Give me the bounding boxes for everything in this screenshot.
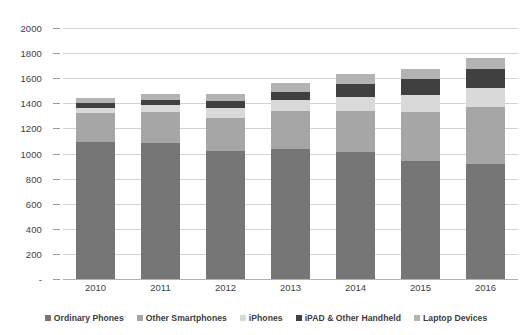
- y-axis-tick-mark: [53, 103, 60, 104]
- legend-item[interactable]: iPhones: [240, 313, 283, 323]
- bar-segment[interactable]: [206, 151, 245, 279]
- bar-segment[interactable]: [336, 74, 375, 84]
- legend-item[interactable]: iPAD & Other Handheld: [296, 313, 401, 323]
- bar-segment[interactable]: [271, 92, 310, 100]
- bar-segment[interactable]: [206, 108, 245, 118]
- bar-segment[interactable]: [336, 152, 375, 279]
- bar-segment[interactable]: [76, 98, 115, 104]
- bar-group[interactable]: [401, 28, 440, 279]
- bar-segment[interactable]: [466, 58, 505, 70]
- y-axis-tick-label: 1400: [0, 98, 42, 109]
- bar-segment[interactable]: [466, 69, 505, 87]
- legend-label: Laptop Devices: [423, 313, 487, 323]
- legend-swatch-icon: [137, 315, 143, 321]
- y-axis-tick-mark: [53, 154, 60, 155]
- bar-segment[interactable]: [141, 100, 180, 106]
- legend-swatch-icon: [414, 315, 420, 321]
- y-axis-tick-label: 2000: [0, 23, 42, 34]
- y-axis-tick-mark: [53, 179, 60, 180]
- bar-group[interactable]: [206, 28, 245, 279]
- bar-segment[interactable]: [401, 161, 440, 279]
- bar-segment[interactable]: [336, 111, 375, 152]
- y-axis-tick-mark: [53, 128, 60, 129]
- bar-segment[interactable]: [271, 100, 310, 111]
- y-axis-tick-label: 1600: [0, 73, 42, 84]
- legend-label: Other Smartphones: [146, 313, 227, 323]
- bar-group[interactable]: [141, 28, 180, 279]
- bar-segment[interactable]: [76, 142, 115, 279]
- x-axis-line: [63, 279, 518, 280]
- bar-segment[interactable]: [76, 103, 115, 107]
- y-axis-tick-mark: [53, 254, 60, 255]
- x-axis-tick-label: 2012: [193, 282, 258, 293]
- bar-segment[interactable]: [206, 101, 245, 108]
- bar-segment[interactable]: [466, 107, 505, 163]
- legend-item[interactable]: Other Smartphones: [137, 313, 227, 323]
- chart-legend: Ordinary PhonesOther SmartphonesiPhonesi…: [0, 313, 532, 323]
- y-axis-tick-label: 800: [0, 173, 42, 184]
- legend-label: iPhones: [249, 313, 283, 323]
- x-axis-tick-label: 2014: [323, 282, 388, 293]
- y-axis-tick-label: -: [0, 274, 42, 285]
- x-axis-tick-label: 2011: [128, 282, 193, 293]
- bar-segment[interactable]: [206, 118, 245, 151]
- bar-segment[interactable]: [206, 94, 245, 101]
- x-axis-tick-label: 2016: [453, 282, 518, 293]
- x-axis-tick-label: 2013: [258, 282, 323, 293]
- legend-swatch-icon: [296, 315, 302, 321]
- y-axis-tick-label: 200: [0, 248, 42, 259]
- bar-segment[interactable]: [271, 83, 310, 92]
- x-axis-tick-label: 2015: [388, 282, 453, 293]
- legend-item[interactable]: Laptop Devices: [414, 313, 487, 323]
- bar-segment[interactable]: [401, 79, 440, 95]
- y-axis-tick-mark: [53, 204, 60, 205]
- bar-segment[interactable]: [401, 69, 440, 80]
- y-axis-tick-label: 600: [0, 198, 42, 209]
- y-axis-tick-mark: [53, 28, 60, 29]
- x-axis-tick-label: 2010: [63, 282, 128, 293]
- legend-swatch-icon: [45, 315, 51, 321]
- legend-item[interactable]: Ordinary Phones: [45, 313, 124, 323]
- bar-segment[interactable]: [336, 97, 375, 111]
- bar-group[interactable]: [271, 28, 310, 279]
- bar-segment[interactable]: [76, 113, 115, 142]
- y-axis-tick-mark: [53, 53, 60, 54]
- bar-segment[interactable]: [466, 88, 505, 107]
- y-axis-tick-mark: [53, 279, 60, 280]
- y-axis-tick-label: 400: [0, 223, 42, 234]
- y-axis-tick-mark: [53, 229, 60, 230]
- legend-swatch-icon: [240, 315, 246, 321]
- y-axis-tick-label: 1000: [0, 148, 42, 159]
- bar-group[interactable]: [76, 28, 115, 279]
- plot-area: -200400600800100012001400160018002000 20…: [63, 28, 518, 279]
- bar-segment[interactable]: [271, 149, 310, 279]
- bar-segment[interactable]: [271, 111, 310, 149]
- bar-segment[interactable]: [141, 94, 180, 100]
- y-axis-tick-mark: [53, 78, 60, 79]
- bar-segment[interactable]: [401, 112, 440, 161]
- bar-segment[interactable]: [336, 84, 375, 97]
- bar-segment[interactable]: [401, 95, 440, 112]
- bar-segment[interactable]: [466, 164, 505, 279]
- bar-group[interactable]: [466, 28, 505, 279]
- bar-segment[interactable]: [76, 108, 115, 114]
- bar-segment[interactable]: [141, 105, 180, 112]
- bar-group[interactable]: [336, 28, 375, 279]
- y-axis-tick-label: 1200: [0, 123, 42, 134]
- y-axis-tick-label: 1800: [0, 48, 42, 59]
- legend-label: Ordinary Phones: [54, 313, 124, 323]
- legend-label: iPAD & Other Handheld: [305, 313, 401, 323]
- bar-segment[interactable]: [141, 143, 180, 279]
- bar-segment[interactable]: [141, 112, 180, 143]
- bar-series-container: [63, 28, 518, 279]
- stacked-bar-chart: -200400600800100012001400160018002000 20…: [0, 0, 532, 335]
